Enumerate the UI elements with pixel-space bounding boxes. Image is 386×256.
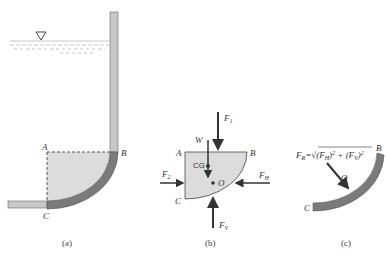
free-body-abc xyxy=(185,152,247,199)
force-fv-label: FV xyxy=(218,220,230,231)
point-o-label: O xyxy=(218,178,225,188)
point-c-label: C xyxy=(43,211,50,221)
diagram-canvas: A B C (a) F1 W CG O F2 FH FV A B C (b) xyxy=(0,0,386,256)
point-b-label: B xyxy=(376,143,382,153)
panel-c: FR=√(FH)2 + (FV)2 O B C (c) xyxy=(295,143,384,248)
point-o-dot xyxy=(211,181,215,185)
panel-b: F1 W CG O F2 FH FV A B C (b) xyxy=(160,112,270,248)
force-fh-label: FH xyxy=(258,170,270,181)
caption-b: (b) xyxy=(205,238,216,248)
free-surface-triangle-icon xyxy=(36,32,46,40)
point-b-label: B xyxy=(121,148,127,158)
point-a-label: A xyxy=(175,148,182,158)
curved-surface-bc xyxy=(313,153,384,211)
force-f1-label: F1 xyxy=(223,113,233,124)
caption-c: (c) xyxy=(341,238,351,248)
caption-a: (a) xyxy=(62,238,72,248)
water-surface xyxy=(10,41,109,53)
horizontal-pipe xyxy=(8,201,47,208)
vertical-pipe xyxy=(110,12,118,152)
force-f2-label: F2 xyxy=(161,169,171,180)
resultant-formula: FR=√(FH)2 + (FV)2 xyxy=(295,150,364,161)
cg-label: CG xyxy=(193,161,205,170)
point-b-label: B xyxy=(250,148,256,158)
panel-a: A B C (a) xyxy=(8,12,127,248)
point-o-label: O xyxy=(341,173,348,183)
cg-dot xyxy=(206,164,210,168)
point-c-label: C xyxy=(175,196,182,206)
point-a-label: A xyxy=(41,142,48,152)
weight-label: W xyxy=(195,135,204,145)
point-c-label: C xyxy=(304,203,311,213)
